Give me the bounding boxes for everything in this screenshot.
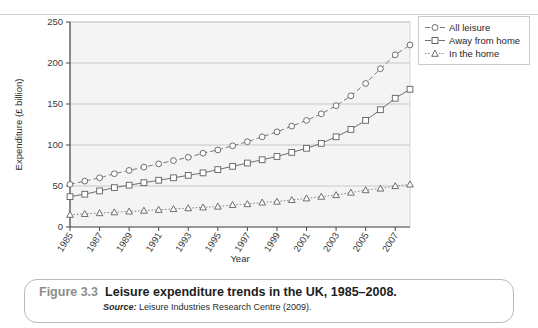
- y-axis-title: Expenditure (£ billion): [13, 79, 24, 171]
- data-point: [274, 129, 280, 135]
- x-tick-label: 1995: [202, 230, 223, 254]
- figure-number: Figure 3.3: [39, 285, 98, 299]
- data-point: [318, 111, 324, 117]
- data-point: [259, 134, 265, 140]
- data-point: [200, 170, 206, 176]
- data-point: [348, 93, 354, 99]
- data-point: [230, 143, 236, 149]
- data-point: [304, 145, 310, 151]
- legend-item-label: All leisure: [449, 22, 490, 33]
- x-tick-label: 2005: [350, 230, 371, 254]
- x-tick-label: 1997: [232, 230, 253, 254]
- y-tick-label: 150: [47, 98, 63, 109]
- data-point: [407, 42, 413, 48]
- data-point: [304, 118, 310, 124]
- legend-marker-circle-icon: [424, 22, 446, 33]
- source-label: Source:: [103, 302, 137, 312]
- data-point: [141, 180, 147, 186]
- data-point: [67, 194, 73, 200]
- legend-item-in-the-home[interactable]: In the home: [424, 48, 525, 59]
- x-axis-title: Year: [230, 253, 249, 264]
- data-point: [141, 164, 147, 170]
- figure-title: Leisure expenditure trends in the UK, 19…: [105, 285, 397, 299]
- data-point: [156, 161, 162, 167]
- data-point: [97, 175, 103, 181]
- data-point: [289, 123, 295, 129]
- chart-figure: 0501001502002501985198719891991199319951…: [0, 0, 538, 270]
- data-point: [289, 149, 295, 155]
- data-point: [392, 95, 398, 101]
- data-point: [97, 188, 103, 194]
- x-tick-label: 1991: [143, 230, 164, 254]
- x-tick-label: 2003: [321, 230, 342, 254]
- data-point: [274, 154, 280, 160]
- data-point: [215, 147, 221, 153]
- data-point: [126, 168, 132, 174]
- data-point: [363, 118, 369, 124]
- legend-item-all-leisure[interactable]: All leisure: [424, 22, 525, 33]
- x-tick-label: 1987: [84, 230, 105, 254]
- y-tick-label: 200: [47, 57, 63, 68]
- y-tick-label: 250: [47, 16, 63, 27]
- legend-marker-triangle-icon: [424, 48, 446, 59]
- data-point: [244, 160, 250, 166]
- x-tick-label: 1985: [54, 230, 75, 254]
- x-tick-label: 1999: [261, 230, 282, 254]
- x-tick-label: 1993: [173, 230, 194, 254]
- caption-primary-line: Figure 3.3 Leisure expenditure trends in…: [39, 285, 499, 299]
- data-point: [244, 139, 250, 145]
- data-point: [348, 127, 354, 133]
- data-point: [363, 81, 369, 87]
- data-point: [200, 150, 206, 156]
- data-point: [156, 177, 162, 183]
- figure-page: 0501001502002501985198719891991199319951…: [0, 0, 538, 328]
- data-point: [111, 185, 117, 191]
- data-point: [185, 154, 191, 160]
- caption-source-line: Source: Leisure Industries Research Cent…: [39, 302, 499, 312]
- data-point: [407, 86, 413, 92]
- data-point: [333, 134, 339, 140]
- data-point: [392, 52, 398, 58]
- data-point: [378, 107, 384, 113]
- figure-caption-box: Figure 3.3 Leisure expenditure trends in…: [24, 279, 514, 323]
- legend-item-label: In the home: [449, 48, 499, 59]
- y-tick-label: 100: [47, 139, 63, 150]
- data-point: [185, 172, 191, 178]
- legend-item-label: Away from home: [449, 35, 520, 46]
- data-point: [82, 178, 88, 184]
- data-point: [171, 175, 177, 181]
- x-tick-label: 2001: [291, 230, 312, 254]
- data-point: [171, 158, 177, 164]
- legend-item-away-from-home[interactable]: Away from home: [424, 35, 525, 46]
- data-point: [333, 103, 339, 109]
- legend-marker-square-icon: [424, 35, 446, 46]
- data-point: [259, 157, 265, 163]
- y-tick-label: 0: [58, 221, 63, 232]
- source-text: Leisure Industries Research Centre (2009…: [139, 302, 312, 312]
- chart-legend: All leisure Away from home: [418, 16, 530, 65]
- data-point: [82, 191, 88, 197]
- data-point: [318, 140, 324, 146]
- y-tick-label: 50: [52, 180, 63, 191]
- x-tick-label: 2007: [380, 230, 401, 254]
- x-tick-label: 1989: [114, 230, 135, 254]
- data-point: [67, 181, 73, 187]
- data-point: [230, 163, 236, 169]
- data-point: [111, 171, 117, 177]
- data-point: [215, 167, 221, 173]
- data-point: [126, 182, 132, 188]
- data-point: [378, 66, 384, 72]
